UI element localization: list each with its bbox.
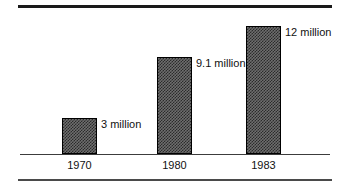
bar-1970 <box>62 118 97 154</box>
category-label-1983: 1983 <box>246 159 281 172</box>
bottom-divider-rule <box>18 179 332 181</box>
bar-chart-figure: 3 million 1970 9.1 million 1980 12 milli… <box>0 0 350 190</box>
value-label-1970: 3 million <box>101 118 141 130</box>
category-label-1980: 1980 <box>157 159 192 172</box>
category-label-1970: 1970 <box>62 159 97 172</box>
value-label-1980: 9.1 million <box>196 57 246 69</box>
x-axis-line <box>20 154 330 155</box>
bar-1983 <box>246 26 281 154</box>
value-label-1983: 12 million <box>285 26 331 38</box>
bar-1980 <box>157 57 192 154</box>
plot-area: 3 million 1970 9.1 million 1980 12 milli… <box>0 0 350 190</box>
